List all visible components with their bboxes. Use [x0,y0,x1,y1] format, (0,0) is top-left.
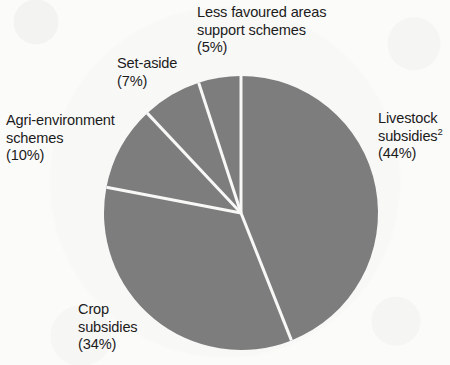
slice-label-line-1: Crop [78,301,138,319]
slice-label-line-1: Set-aside [117,55,177,73]
slice-label-line-2: subsidies [78,319,138,337]
slice-label-line-2-text: subsidies [378,128,438,144]
slice-label-percent: (34%) [78,336,138,354]
slice-label-line-2: subsidies2 [378,128,443,146]
slice-label-line-1: Livestock [378,110,443,128]
slice-label-crop: Crop subsidies (34%) [78,301,138,354]
slice-label-less-favoured-areas: Less favoured areas support schemes (5%) [197,4,326,57]
pie-chart-figure: Less favoured areas support schemes (5%)… [0,0,450,365]
slice-label-percent: (44%) [378,145,443,163]
slice-label-percent: (7%) [117,73,177,91]
slice-label-line-2: support schemes [197,22,326,40]
footnote-marker: 2 [438,126,443,137]
slice-label-percent: (5%) [197,39,326,57]
slice-label-line-1: Less favoured areas [197,4,326,22]
slice-label-line-2: schemes [6,130,115,148]
slice-label-line-1: Agri-environment [6,112,115,130]
slice-label-percent: (10%) [6,147,115,165]
slice-label-set-aside: Set-aside (7%) [117,55,177,90]
slice-label-livestock: Livestock subsidies2 (44%) [378,110,443,163]
slice-label-agri-environment: Agri-environment schemes (10%) [6,112,115,165]
